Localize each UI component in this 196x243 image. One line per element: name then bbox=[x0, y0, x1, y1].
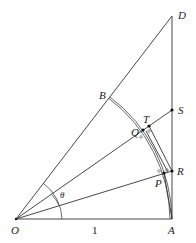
point-S bbox=[170, 108, 173, 111]
arc-AB-outer bbox=[110, 97, 172, 219]
label-D: D bbox=[177, 9, 186, 21]
segment-TR-parallel bbox=[146, 131, 168, 172]
segment-OR bbox=[16, 171, 172, 219]
label-T: T bbox=[143, 113, 150, 125]
segment-PA bbox=[164, 173, 172, 219]
point-P bbox=[162, 171, 165, 174]
label-O: O bbox=[11, 224, 19, 236]
label-R: R bbox=[176, 165, 184, 177]
label-theta: θ bbox=[60, 190, 65, 200]
label-A: A bbox=[167, 224, 175, 236]
geometry-diagram: D B S T Q R P O A θ 1 bbox=[0, 0, 196, 243]
label-B: B bbox=[99, 89, 106, 101]
right-angle-mark-P bbox=[158, 170, 161, 173]
right-angle-mark-Q bbox=[140, 136, 143, 139]
right-angle-mark-T bbox=[148, 130, 151, 133]
label-S: S bbox=[178, 104, 184, 116]
label-Q: Q bbox=[131, 126, 139, 138]
segment-QT-to-R bbox=[149, 126, 172, 171]
point-R bbox=[170, 169, 173, 172]
label-P: P bbox=[154, 177, 162, 189]
point-O bbox=[15, 218, 17, 220]
point-Q bbox=[141, 128, 144, 131]
label-side-length: 1 bbox=[92, 224, 98, 236]
